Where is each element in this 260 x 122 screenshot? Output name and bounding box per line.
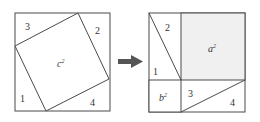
right-arrow-icon	[118, 55, 143, 68]
left-triangle-3-label: 3	[25, 21, 30, 32]
right-triangle-2-label: 2	[165, 22, 170, 33]
left-square: 3 2 1 4 c2	[15, 13, 110, 111]
right-triangle-4-label: 4	[230, 97, 235, 108]
right-triangle-1-label: 1	[153, 66, 158, 77]
right-triangle-3-label: 3	[188, 88, 193, 99]
left-triangle-4-label: 4	[90, 97, 95, 108]
right-square: 2 1 3 4 a2 b2	[149, 13, 245, 112]
left-triangle-2-label: 2	[95, 25, 100, 36]
pythagoras-diagram: 3 2 1 4 c2 2 1 3 4 a2 b2	[0, 0, 260, 122]
left-triangle-1-label: 1	[20, 93, 25, 104]
